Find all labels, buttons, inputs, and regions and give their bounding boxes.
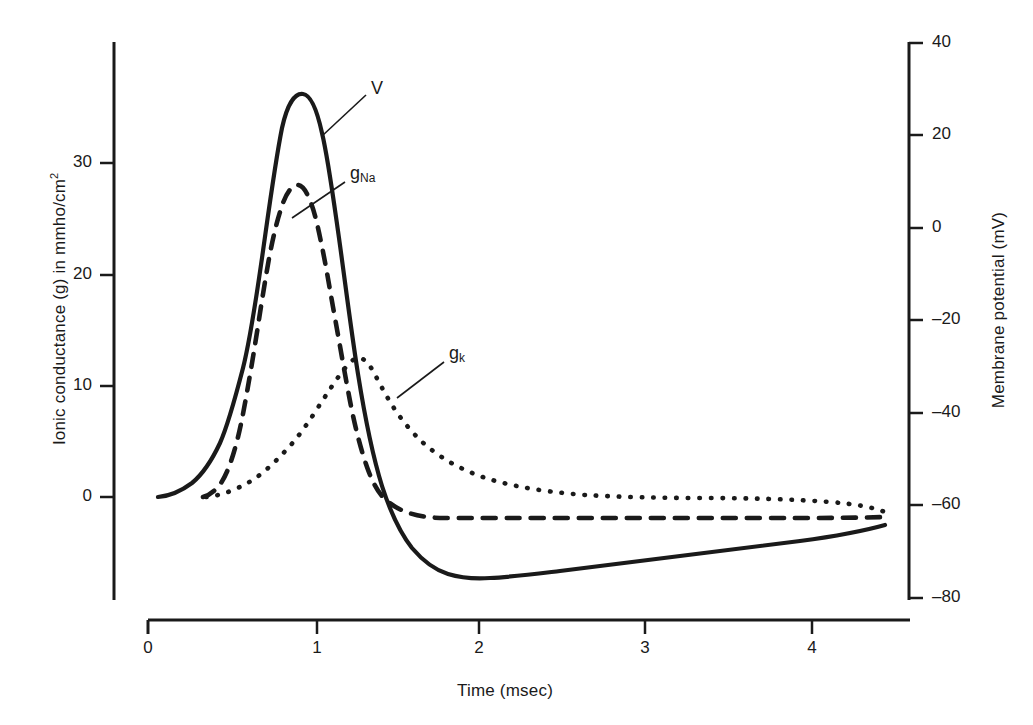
data-curves bbox=[158, 94, 885, 578]
left-axis-title-superscript: 2 bbox=[48, 173, 60, 179]
left-axis-title-text: Ionic conductance (g) in mmho/cm bbox=[50, 179, 69, 445]
series-label-gk-main: g bbox=[449, 343, 459, 363]
x-tick-label-4: 4 bbox=[792, 638, 832, 658]
right-tick-label-20: 20 bbox=[932, 124, 978, 144]
left-tick-label-10: 10 bbox=[52, 375, 92, 395]
right-axis-ticks bbox=[909, 43, 923, 598]
bottom-axis-ticks bbox=[317, 620, 812, 634]
right-tick-label-0: 0 bbox=[932, 217, 978, 237]
action-potential-conductance-figure: Ionic conductance (g) in mmho/cm2 Membra… bbox=[0, 0, 1033, 725]
right-tick-label-40: 40 bbox=[932, 32, 978, 52]
series-label-gna-main: g bbox=[350, 163, 360, 183]
right-tick-label-minus80: –80 bbox=[932, 587, 978, 607]
leader-line-gk bbox=[397, 362, 444, 398]
right-tick-label-minus60: –60 bbox=[932, 494, 978, 514]
x-tick-label-0: 0 bbox=[128, 638, 168, 658]
plot-canvas bbox=[0, 0, 1033, 725]
series-label-gna: gNa bbox=[350, 163, 375, 184]
left-tick-label-0: 0 bbox=[52, 486, 92, 506]
series-label-gk: gk bbox=[449, 343, 465, 364]
curve-gk bbox=[206, 358, 885, 512]
series-label-gna-sub: Na bbox=[360, 171, 375, 185]
curve-v bbox=[158, 94, 885, 578]
left-tick-label-30: 30 bbox=[52, 152, 92, 172]
right-axis-title: Membrane potential (mV) bbox=[989, 100, 1009, 520]
right-tick-label-minus40: –40 bbox=[932, 402, 978, 422]
x-axis-title: Time (msec) bbox=[340, 681, 670, 701]
x-tick-label-3: 3 bbox=[625, 638, 665, 658]
left-axis-ticks bbox=[100, 163, 114, 497]
axis-lines bbox=[100, 42, 923, 634]
x-tick-label-1: 1 bbox=[297, 638, 337, 658]
left-tick-label-20: 20 bbox=[52, 264, 92, 284]
series-label-gk-sub: k bbox=[459, 351, 465, 365]
series-label-v: V bbox=[371, 78, 383, 99]
leader-line-v bbox=[322, 95, 366, 136]
right-tick-label-minus20: –20 bbox=[932, 309, 978, 329]
curve-gna bbox=[203, 185, 885, 518]
x-tick-label-2: 2 bbox=[459, 638, 499, 658]
annotation-leader-lines bbox=[292, 95, 444, 398]
